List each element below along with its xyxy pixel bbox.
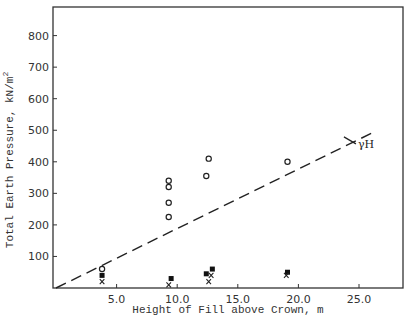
y-tick-label: 600: [28, 93, 49, 106]
open-circle-marker: [206, 156, 211, 161]
x-tick-label: 25.0: [347, 293, 372, 306]
open-circle-marker: [166, 178, 171, 183]
filled-square-marker: [100, 273, 105, 278]
y-tick-label: 800: [28, 30, 49, 43]
y-axis-title: Total Earth Pressure, kN/m2: [1, 72, 16, 249]
filled-square-marker: [204, 271, 209, 276]
annotation-leader: [344, 137, 356, 144]
y-tick-label: 200: [28, 219, 49, 232]
y-tick-label: 700: [28, 61, 49, 74]
plot-border: [53, 7, 403, 288]
filled-square-marker: [169, 276, 174, 281]
x-axis: 5.010.015.020.025.0: [108, 284, 371, 306]
y-axis-title-main: Total Earth Pressure, kN/m: [4, 76, 16, 248]
data-series: [56, 133, 371, 288]
y-axis-title-superscript: 2: [1, 72, 10, 77]
open-circle-marker: [204, 173, 209, 178]
open-circle-marker: [285, 159, 290, 164]
x-tick-label: 5.0: [108, 293, 126, 306]
cross-marker: [166, 282, 171, 287]
annotation-label: γH: [358, 138, 374, 151]
open-circle-marker: [166, 214, 171, 219]
cross-marker: [209, 273, 214, 278]
cross-marker: [206, 279, 211, 284]
cross-marker: [100, 279, 105, 284]
filled-square-marker: [210, 267, 215, 272]
plot-frame: [53, 7, 403, 288]
open-circle-marker: [166, 184, 171, 189]
scatter-chart: 5.010.015.020.025.0 10020030040050060070…: [0, 0, 409, 318]
y-tick-label: 300: [28, 187, 49, 200]
gamma-h-line: [56, 133, 371, 288]
x-axis-title: Height of Fill above Crown, m: [132, 304, 324, 316]
y-tick-label: 400: [28, 156, 49, 169]
y-tick-label: 500: [28, 124, 49, 137]
open-circle-marker: [166, 200, 171, 205]
y-tick-label: 100: [28, 250, 49, 263]
open-circle-marker: [99, 266, 104, 271]
